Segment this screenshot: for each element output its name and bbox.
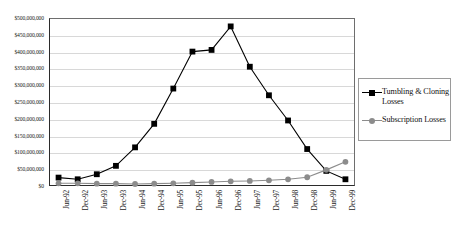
x-axis-tick-label: Jun-94	[138, 190, 147, 209]
x-axis-tick-label: Jun-92	[62, 190, 71, 209]
y-axis-tick-label: $400,000,000	[0, 49, 44, 55]
y-axis-tick-label: $100,000,000	[0, 149, 44, 155]
gridline	[50, 69, 354, 70]
x-axis-tick-label: Jun-96	[215, 190, 224, 209]
y-axis-tick-label: $200,000,000	[0, 116, 44, 122]
chart-legend: Tumbling & Cloning Losses Subscription L…	[358, 78, 451, 141]
y-axis-tick-label: $300,000,000	[0, 82, 44, 88]
gridline	[50, 103, 354, 104]
gridline	[50, 153, 354, 154]
y-axis-tick-label: $500,000,000	[0, 15, 44, 21]
gridline	[50, 36, 354, 37]
legend-swatch-circle-icon	[362, 116, 382, 125]
legend-label: Tumbling & Cloning Losses	[382, 87, 450, 106]
x-axis-tick-label: Dec-99	[348, 190, 357, 211]
y-axis-tick-label: $250,000,000	[0, 99, 44, 105]
y-axis-tick-label: $150,000,000	[0, 133, 44, 139]
legend-entry-tumbling-cloning-losses: Tumbling & Cloning Losses	[362, 87, 450, 106]
x-axis-tick-label: Dec-98	[310, 190, 319, 211]
y-axis-tick-label: $350,000,000	[0, 65, 44, 71]
gridline	[50, 86, 354, 87]
x-axis-tick-label: Dec-95	[195, 190, 204, 211]
y-axis-tick-label: $0	[0, 183, 44, 189]
x-axis-tick-label: Dec-97	[272, 190, 281, 211]
legend-label: Subscription Losses	[382, 115, 446, 125]
chart-screenshot: Tumbling & Cloning Losses Subscription L…	[0, 0, 455, 234]
legend-entry-subscription-losses: Subscription Losses	[362, 115, 450, 125]
gridline	[50, 137, 354, 138]
x-axis-tick-label: Dec-96	[234, 190, 243, 211]
gridline	[50, 120, 354, 121]
x-axis-tick-label: Jun-98	[291, 190, 300, 209]
x-axis-tick-label: Dec-94	[157, 190, 166, 211]
y-axis-tick-label: $50,000,000	[0, 166, 44, 172]
y-axis-tick-label: $450,000,000	[0, 32, 44, 38]
x-axis-tick-label: Jun-95	[176, 190, 185, 209]
x-axis-tick-label: Jun-93	[100, 190, 109, 209]
gridline	[50, 53, 354, 54]
gridline	[50, 170, 354, 171]
x-axis-tick-label: Jun-99	[329, 190, 338, 209]
x-axis-tick-label: Jun-97	[253, 190, 262, 209]
plot-area	[49, 18, 355, 186]
x-axis-tick-label: Dec-92	[81, 190, 90, 211]
x-axis-tick-label: Dec-93	[119, 190, 128, 211]
legend-swatch-square-icon	[362, 88, 382, 97]
